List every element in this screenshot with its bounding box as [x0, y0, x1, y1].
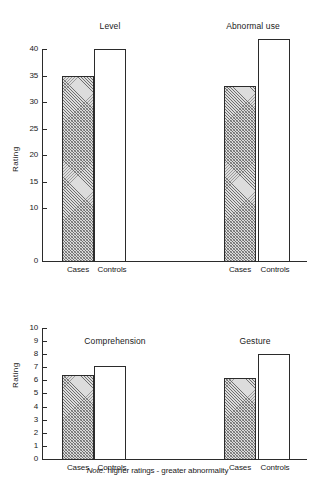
- chart-bottom: Rating 10 9 8 7 6 5 4 3 2 1 0 Comprehens…: [0, 278, 315, 478]
- y-tick-bottom-4: [43, 407, 47, 408]
- y-tick-top-0: [43, 261, 47, 262]
- panel-title-comprehension: Comprehension: [55, 337, 175, 346]
- bar-gesture-cases: [224, 378, 256, 460]
- y-tick-bottom-9: [43, 341, 47, 342]
- panel-title-gesture: Gesture: [205, 337, 305, 346]
- y-tick-label-bottom-7: 7: [16, 363, 38, 371]
- y-tick-bottom-1: [43, 446, 47, 447]
- bar-level-controls: [94, 49, 126, 262]
- y-tick-label-bottom-9: 9: [16, 337, 38, 345]
- y-tick-bottom-5: [43, 393, 47, 394]
- y-tick-label-top-30: 30: [16, 98, 38, 106]
- y-tick-label-bottom-10: 10: [16, 324, 38, 332]
- y-axis-line-bottom: [42, 328, 43, 460]
- y-tick-bottom-6: [43, 380, 47, 381]
- y-tick-label-top-0: 0: [16, 257, 38, 265]
- y-tick-top-35: [43, 76, 47, 77]
- panel-title-abnormal-use: Abnormal use: [198, 22, 308, 31]
- y-tick-bottom-8: [43, 354, 47, 355]
- bar-abnormal-use-controls: [258, 39, 290, 262]
- y-tick-top-25: [43, 129, 47, 130]
- note-text: higher ratings - greater abnormality: [107, 466, 228, 475]
- bar-gesture-controls: [258, 354, 290, 460]
- y-tick-label-bottom-5: 5: [16, 389, 38, 397]
- x-label-abnormal-use-controls: Controls: [253, 265, 297, 274]
- y-tick-label-bottom-2: 2: [16, 429, 38, 437]
- panel-title-level: Level: [55, 22, 165, 31]
- y-tick-label-top-10: 10: [16, 204, 38, 212]
- y-tick-label-bottom-1: 1: [16, 442, 38, 450]
- note-label: Note:: [87, 466, 106, 475]
- figure-note: Note: higher ratings - greater abnormali…: [0, 466, 315, 476]
- bar-abnormal-use-cases: [224, 86, 256, 262]
- y-tick-bottom-10: [43, 328, 47, 329]
- y-tick-label-top-25: 25: [16, 125, 38, 133]
- figure-panel-grid: Rating 40 35 30 25 20 15 10 0 Level Case…: [0, 0, 315, 499]
- y-tick-top-30: [43, 102, 47, 103]
- y-tick-label-bottom-6: 6: [16, 376, 38, 384]
- y-tick-bottom-7: [43, 367, 47, 368]
- y-tick-top-40: [43, 49, 47, 50]
- bar-comprehension-controls: [94, 366, 126, 460]
- y-tick-top-10: [43, 208, 47, 209]
- y-tick-bottom-3: [43, 420, 47, 421]
- bar-comprehension-cases: [62, 375, 94, 460]
- y-tick-label-bottom-3: 3: [16, 416, 38, 424]
- y-tick-label-top-15: 15: [16, 178, 38, 186]
- y-tick-bottom-0: [43, 459, 47, 460]
- y-tick-label-bottom-0: 0: [16, 455, 38, 463]
- y-tick-top-15: [43, 182, 47, 183]
- y-tick-label-top-20: 20: [16, 151, 38, 159]
- y-tick-label-bottom-8: 8: [16, 350, 38, 358]
- bar-level-cases: [62, 76, 94, 262]
- y-tick-top-20: [43, 155, 47, 156]
- y-tick-bottom-2: [43, 433, 47, 434]
- y-tick-label-bottom-4: 4: [16, 403, 38, 411]
- chart-top: Rating 40 35 30 25 20 15 10 0 Level Case…: [0, 0, 315, 278]
- y-tick-label-top-40: 40: [16, 45, 38, 53]
- y-tick-label-top-35: 35: [16, 72, 38, 80]
- x-label-level-controls: Controls: [90, 265, 134, 274]
